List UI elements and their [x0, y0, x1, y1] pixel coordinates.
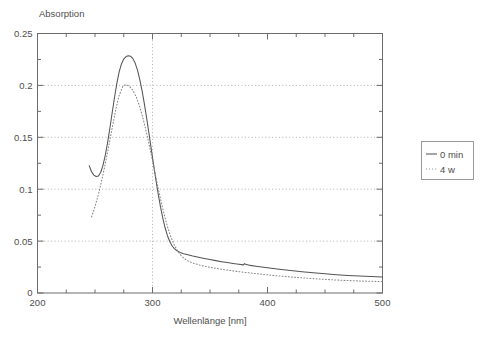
x-tick-label: 400: [260, 297, 276, 308]
y-tick-label: 0.25: [14, 28, 33, 39]
x-axis-title: Wellenlänge [nm]: [173, 315, 246, 326]
y-tick-label: 0.2: [19, 80, 32, 91]
legend-label-0-min: 0 min: [440, 149, 463, 160]
series-4-w: [92, 85, 383, 282]
y-tick-label: 0.1: [19, 184, 32, 195]
series-0-min: [89, 56, 382, 277]
plot-border: [38, 34, 383, 294]
y-axis-ticks: [38, 34, 383, 294]
x-axis-ticks: [38, 34, 383, 294]
x-tick-label: 300: [145, 297, 161, 308]
y-tick-label: 0.05: [14, 236, 33, 247]
gridlines: [38, 34, 383, 294]
absorption-spectrum-figure: 200300400500 00.050.10.150.20.25 Absorpt…: [0, 0, 480, 339]
y-axis-tick-labels: 00.050.10.150.20.25: [14, 28, 33, 299]
legend-label-4-w: 4 w: [440, 164, 455, 175]
y-axis-title: Absorption: [39, 8, 84, 19]
x-axis-tick-labels: 200300400500: [30, 297, 391, 308]
y-tick-label: 0.15: [14, 132, 33, 143]
plot-frame: [38, 34, 383, 294]
y-tick-label: 0: [27, 287, 32, 298]
data-series-layer: [89, 56, 382, 282]
chart-canvas: 200300400500 00.050.10.150.20.25 Absorpt…: [0, 0, 480, 339]
x-tick-label: 200: [30, 297, 46, 308]
legend: 0 min 4 w: [422, 142, 474, 180]
x-tick-label: 500: [375, 297, 391, 308]
